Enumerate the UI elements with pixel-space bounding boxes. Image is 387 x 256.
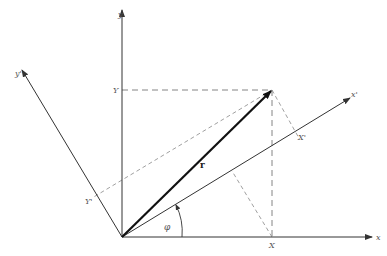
x-prime-axis-label: x' — [351, 90, 358, 99]
y-prime-projection-line — [92, 90, 272, 198]
X-prime-projection-label: X' — [297, 133, 306, 142]
X-projection-label: X — [268, 241, 275, 250]
y-prime-axis — [22, 70, 122, 237]
vector-r-label: r — [200, 160, 205, 170]
axes — [22, 10, 372, 237]
rotated-axes-diagram: y x x' y' Y X X' Y' r φ — [0, 0, 387, 256]
x-on-x-prime-projection-line — [232, 171, 272, 237]
angle-phi-label: φ — [164, 222, 171, 232]
Y-prime-projection-label: Y' — [85, 197, 92, 206]
x-axis-label: x — [376, 233, 381, 242]
vector-r — [122, 91, 271, 237]
Y-projection-label: Y — [113, 86, 119, 95]
x-prime-axis — [122, 98, 350, 237]
y-axis-label: y — [117, 10, 123, 19]
x-prime-projection-line — [272, 90, 300, 140]
y-prime-axis-label: y' — [14, 69, 22, 78]
angle-arc — [176, 205, 182, 237]
